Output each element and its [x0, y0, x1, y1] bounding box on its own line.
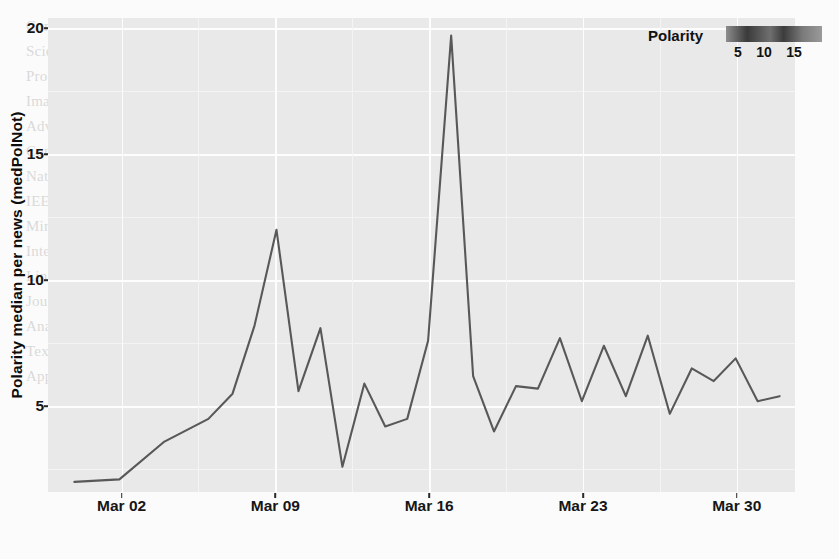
- x-axis-tick-mark: [121, 493, 123, 498]
- plot-panel: [48, 18, 795, 492]
- y-axis-label-text: Polarity median per news (medPolNot): [8, 112, 26, 399]
- colorbar-gradient: [726, 26, 822, 42]
- x-axis-tick-mark: [582, 493, 584, 498]
- colorbar-tick-label: 10: [756, 44, 772, 60]
- legend-title: Polarity: [648, 27, 703, 44]
- series-polyline: [74, 36, 779, 482]
- y-axis-tick-mark: [44, 27, 48, 29]
- chart-screenshot: Computer Science, vol. 1, pp. 1-12, 2020…: [0, 0, 839, 559]
- y-axis-label: Polarity median per news (medPolNot): [6, 18, 28, 492]
- colorbar-tick-label: 15: [786, 44, 802, 60]
- x-axis-tick-label: Mar 09: [251, 497, 300, 515]
- x-axis-tick-mark: [275, 493, 277, 498]
- x-axis-tick-label: Mar 16: [405, 497, 454, 515]
- y-axis-tick-mark: [44, 279, 48, 281]
- colorbar-tick-label: 5: [734, 44, 742, 60]
- x-axis-tick-label: Mar 23: [558, 497, 607, 515]
- x-axis-tick-mark: [736, 493, 738, 498]
- x-axis-tick-label: Mar 02: [97, 497, 146, 515]
- colorbar-legend: Polarity 51015: [648, 22, 828, 70]
- line-series: [48, 18, 795, 492]
- y-axis-tick-mark: [44, 153, 48, 155]
- x-axis-tick-mark: [428, 493, 430, 498]
- y-axis-tick-mark: [44, 405, 48, 407]
- x-axis-tick-label: Mar 30: [712, 497, 761, 515]
